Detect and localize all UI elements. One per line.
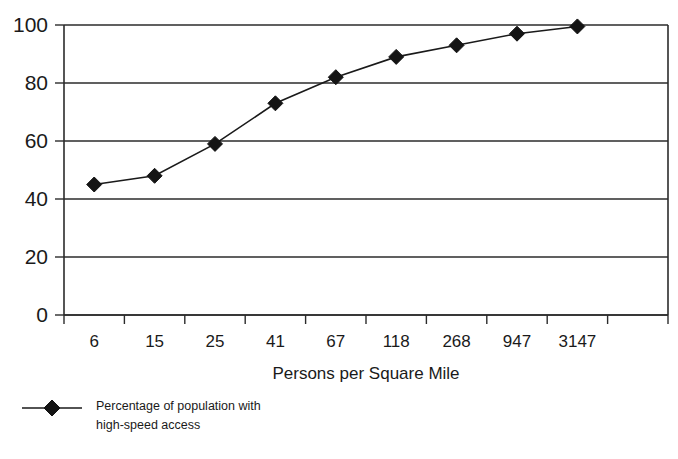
y-tick-label: 40	[25, 187, 48, 210]
y-tick-label: 80	[25, 71, 48, 94]
x-tick-label: 6	[89, 332, 98, 351]
y-tick-label: 100	[13, 13, 48, 36]
chart-figure: 020406080100 6152541671182689473147 Pers…	[0, 0, 678, 459]
x-tick-label: 15	[145, 332, 164, 351]
y-tick-label: 20	[25, 245, 48, 268]
x-tick-label: 25	[206, 332, 225, 351]
legend-label-line2: high-speed access	[96, 418, 200, 432]
x-axis-title: Persons per Square Mile	[272, 364, 459, 383]
x-tick-label: 3147	[558, 332, 596, 351]
line-chart: 020406080100 6152541671182689473147 Pers…	[0, 0, 678, 459]
x-tick-label: 947	[503, 332, 531, 351]
legend-label-line1: Percentage of population with	[96, 399, 261, 413]
y-tick-label: 60	[25, 129, 48, 152]
chart-background	[0, 0, 678, 459]
x-tick-label: 41	[266, 332, 285, 351]
x-tick-label: 118	[383, 332, 410, 351]
x-tick-label: 268	[442, 332, 470, 351]
x-tick-label: 67	[326, 332, 345, 351]
y-tick-label: 0	[36, 303, 48, 326]
